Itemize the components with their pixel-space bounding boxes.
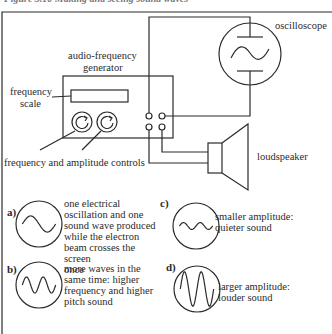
panel-text-line: quieter sound xyxy=(215,222,325,233)
generator-box xyxy=(63,76,173,138)
panel-a-letter: a) xyxy=(7,206,16,218)
panel-text-line: while the electron xyxy=(64,231,164,242)
panel-text-line: one electrical xyxy=(64,198,164,209)
panel-c-letter: c) xyxy=(160,197,169,209)
terminal-speaker-1 xyxy=(146,124,152,130)
loudspeaker-cone xyxy=(222,124,248,190)
panel-text-line: pitch sound xyxy=(64,296,164,307)
terminal-scope-2 xyxy=(159,113,165,119)
wire-speaker-2 xyxy=(162,130,208,152)
controls-label: frequency and amplitude controls xyxy=(4,157,145,168)
generator-label-line1: audio-frequency xyxy=(68,50,137,61)
panel-b-letter: b) xyxy=(7,263,17,275)
panel-d-text: larger amplitude:louder sound xyxy=(218,281,328,303)
panel-b-wave xyxy=(22,277,55,293)
generator-label-line2: generator xyxy=(83,62,123,73)
oscilloscope-trace xyxy=(231,47,269,60)
terminal-speaker-2 xyxy=(159,124,165,130)
panel-text-line: beam crosses the screen xyxy=(64,242,164,264)
loudspeaker-magnet xyxy=(208,143,222,173)
oscilloscope-label: oscilloscope xyxy=(275,20,327,31)
frequency-scale-label-line2: scale xyxy=(20,98,41,109)
diagram: Figure 3.10 Making and seeing sound wave… xyxy=(0,0,332,334)
panel-d-letter: d) xyxy=(166,261,176,273)
wire-scope-top xyxy=(149,17,250,113)
frequency-knob xyxy=(72,112,92,132)
panel-text-line: sound wave produced xyxy=(64,220,164,231)
frequency-scale-label-line1: frequency xyxy=(10,86,52,97)
loudspeaker-label: loudspeaker xyxy=(257,151,308,162)
panel-text-line: larger amplitude: xyxy=(218,281,328,292)
panel-d-wave xyxy=(180,272,213,306)
pointer-knob-2 xyxy=(82,131,101,150)
wire-speaker-1 xyxy=(149,130,208,163)
panel-text-line: oscillation and one xyxy=(64,209,164,220)
panel-text-line: same time: higher xyxy=(64,274,164,285)
panel-text-line: louder sound xyxy=(218,292,328,303)
amplitude-knob xyxy=(97,112,117,132)
pointer-knob-1 xyxy=(40,131,75,150)
panel-text-line: smaller amplitude: xyxy=(215,211,325,222)
panel-text-line: frequency and higher xyxy=(64,285,164,296)
terminal-scope-1 xyxy=(146,113,152,119)
pointer-frequency-scale xyxy=(52,96,71,97)
panel-c-text: smaller amplitude:quieter sound xyxy=(215,211,325,233)
panel-a-wave xyxy=(22,216,55,232)
frequency-scale-display xyxy=(71,90,128,102)
panel-b-text: more waves in thesame time: higherfreque… xyxy=(64,263,164,307)
wire-scope-bottom xyxy=(165,71,250,116)
panel-c-wave xyxy=(179,223,212,230)
panel-text-line: more waves in the xyxy=(64,263,164,274)
